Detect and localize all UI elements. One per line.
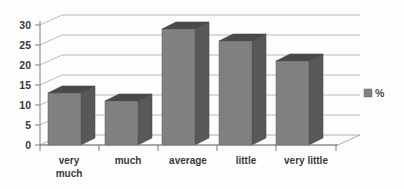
y-axis-tick-labels: 30 25 20 15 10 5 0 <box>19 19 31 151</box>
category-label-much: much <box>115 155 142 166</box>
y-tick-label-30: 30 <box>19 19 31 31</box>
x-axis-category-labels: very much much average little very littl… <box>56 155 329 179</box>
y-tick-label-20: 20 <box>19 59 31 71</box>
category-label-very-little: very little <box>284 155 328 166</box>
bar-average <box>162 22 209 145</box>
y-axis <box>35 21 40 145</box>
legend-swatch-icon <box>364 89 372 97</box>
category-label-average: average <box>169 155 207 166</box>
bar-chart-figure: 30 25 20 15 10 5 0 <box>0 0 404 189</box>
bar-little <box>219 34 266 145</box>
category-label-very-much-line2: much <box>56 168 83 179</box>
x-axis <box>40 145 338 151</box>
bar-very-little <box>276 54 323 145</box>
bar-front-face <box>276 61 309 145</box>
bar-side-face <box>138 94 152 145</box>
bar-front-face <box>48 93 81 145</box>
y-tick-label-15: 15 <box>19 79 31 91</box>
bar-front-face <box>162 29 195 145</box>
bar-side-face <box>195 22 209 145</box>
category-label-little: little <box>236 155 257 166</box>
bar-front-face <box>105 101 138 145</box>
bar-side-face <box>81 86 95 145</box>
bar-side-face <box>309 54 323 145</box>
y-tick-label-10: 10 <box>19 99 31 111</box>
bar-side-face <box>252 34 266 145</box>
y-tick-label-5: 5 <box>25 119 31 131</box>
bar-very-much <box>48 86 95 145</box>
y-tick-label-25: 25 <box>19 39 31 51</box>
category-label-very-much-line1: very <box>59 155 80 166</box>
y-tick-label-0: 0 <box>25 139 31 151</box>
chart-legend: % <box>364 87 385 99</box>
chart-canvas: 30 25 20 15 10 5 0 <box>0 0 404 189</box>
bar-front-face <box>219 41 252 145</box>
legend-entry-label: % <box>375 87 385 99</box>
bar-much <box>105 94 152 145</box>
